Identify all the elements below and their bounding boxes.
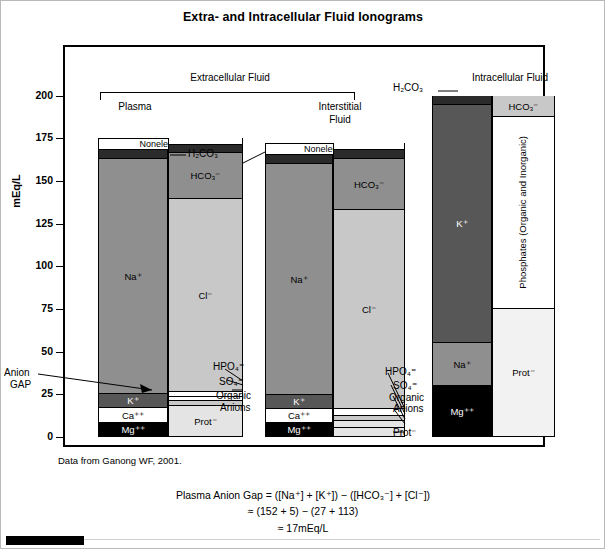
page-title: Extra- and Intracellular Fluid Ionograms (0, 10, 606, 24)
footer-rule (84, 539, 600, 540)
equation-line-3: ≈ 17mEq/L (0, 520, 606, 536)
source-note: Data from Ganong WF, 2001. (58, 455, 182, 466)
segment-interstitial-na: Na⁺ (265, 164, 333, 395)
annotation-plasma-organic: Organic (216, 390, 251, 402)
header-interstitial-line2: Fluid (300, 114, 380, 125)
segment-icf-k: K⁺ (432, 105, 492, 343)
segment-interstitial-anion-h2co3 (333, 150, 405, 159)
segment-icf-phosphates: Phosphates (Organic and Inorganic) (492, 117, 555, 309)
y-tick-175: 175 (0, 138, 63, 139)
equation-block: Plasma Anion Gap = ([Na⁺] + [K⁺]) − ([HC… (0, 487, 606, 536)
segment-plasma-ca: Ca⁺⁺ (98, 408, 168, 423)
y-tick-50: 50 (0, 352, 63, 353)
y-tick-125: 125 (0, 224, 63, 225)
annotation-interstitial-anions: Anions (393, 403, 424, 415)
segment-plasma-mg: Mg⁺⁺ (98, 423, 168, 437)
annotation-anion-gap-line1: Anion (4, 367, 30, 379)
y-tick-200: 200 (0, 96, 63, 97)
segment-icf-phosphates-label: Phosphates (Organic and Inorganic) (518, 136, 529, 289)
annotation-plasma-so4: SO₄⁼ (219, 376, 243, 388)
segment-plasma-anion-nonelectrolytes (168, 138, 243, 145)
annotation-interstitial-organic: Organic (389, 392, 424, 404)
segment-icf-h2co3 (432, 96, 492, 105)
annotation-interstitial-prot: Prot⁻ (393, 427, 416, 439)
equation-line-2: ≈ (152 + 5) − (27 + 113) (0, 503, 606, 519)
segment-plasma-k: K⁺ (98, 394, 168, 408)
extracellular-bracket (100, 92, 355, 100)
equation-line-1: Plasma Anion Gap = ([Na⁺] + [K⁺]) − ([HC… (0, 487, 606, 503)
bar-intracellular-anions: Prot⁻ Phosphates (Organic and Inorganic)… (492, 96, 555, 437)
header-intracellular: Intracellular Fluid (440, 72, 580, 83)
annotation-interstitial-so4: SO₄⁼ (393, 380, 417, 392)
segment-icf-mg: Mg⁺⁺ (432, 386, 492, 437)
annotation-interstitial-hpo4: HPO₄⁼ (385, 366, 416, 378)
annotation-plasma-hpo4: HPO₄⁼ (213, 361, 244, 373)
segment-interstitial-so4 (333, 416, 405, 421)
y-axis-label: mEq/L (10, 161, 22, 221)
segment-icf-prot: Prot⁻ (492, 309, 555, 437)
bar-plasma-cations: Mg⁺⁺ Ca⁺⁺ K⁺ Na⁺ Nonelectrolytes (98, 138, 168, 437)
segment-interstitial-ca: Ca⁺⁺ (265, 409, 333, 423)
segment-plasma-h2co3 (98, 150, 168, 159)
segment-interstitial-k: K⁺ (265, 395, 333, 409)
annotation-h2co3-icf: H₂CO₃ (393, 82, 423, 94)
y-tick-0: 0 (0, 437, 63, 438)
segment-icf-hco3: HCO₃⁻ (492, 96, 555, 117)
annotation-anion-gap-line2: GAP (10, 379, 31, 391)
annotation-plasma-anions: Anions (220, 402, 251, 414)
bar-intracellular-cations: Mg⁺⁺ Na⁺ K⁺ (432, 96, 492, 437)
y-tick-75: 75 (0, 309, 63, 310)
segment-plasma-na: Na⁺ (98, 159, 168, 394)
header-interstitial-line1: Interstitial (300, 101, 380, 112)
segment-interstitial-hco3: HCO₃⁻ (333, 159, 405, 210)
y-tick-25: 25 (0, 394, 63, 395)
segment-interstitial-mg: Mg⁺⁺ (265, 423, 333, 437)
segment-plasma-hco3: HCO₃⁻ (168, 153, 243, 199)
header-plasma: Plasma (90, 101, 180, 112)
segment-interstitial-h2co3 (265, 155, 333, 164)
bar-interstitial-cations: Mg⁺⁺ Ca⁺⁺ K⁺ Na⁺ Nonelectrolytes (265, 143, 333, 437)
annotation-h2co3-plasma: H₂CO₃ (188, 148, 218, 160)
segment-interstitial-anion-nonelectrolytes (333, 143, 405, 150)
segment-icf-na: Na⁺ (432, 343, 492, 386)
y-axis: 200 175 150 125 100 75 50 25 0 mEq/L (0, 0, 63, 550)
header-extracellular: Extracellular Fluid (160, 72, 300, 83)
footer-bar (6, 536, 84, 545)
y-tick-100: 100 (0, 266, 63, 267)
